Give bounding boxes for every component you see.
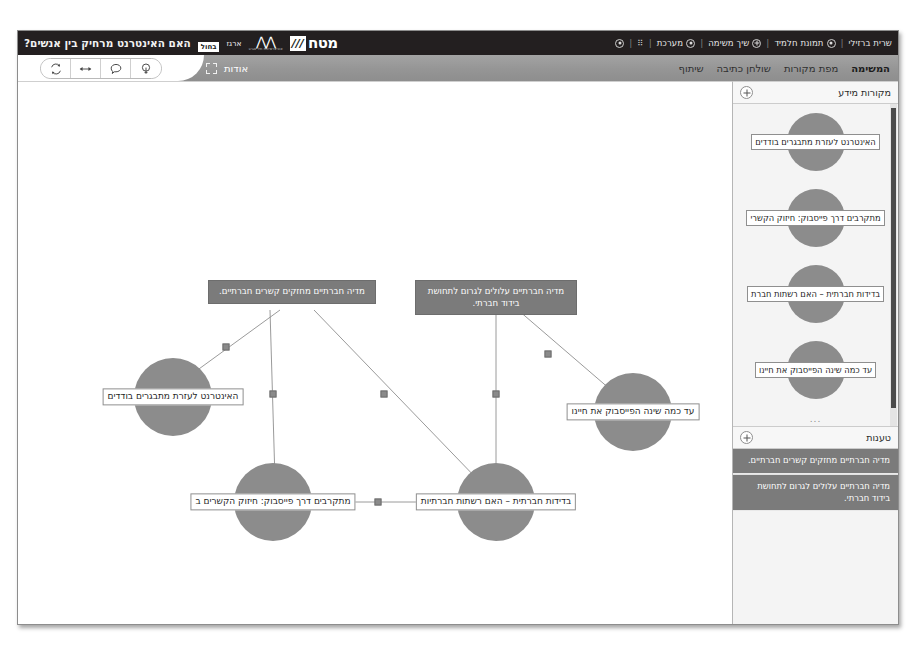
menu-separator: | (840, 38, 845, 48)
menu-item-system-label: מערכת (657, 38, 683, 48)
list-item[interactable]: מדיה חברתיים עלולים לגרום לתחושת בידוד ח… (733, 474, 898, 512)
scrollbar-thumb[interactable] (891, 108, 896, 408)
sidebar-scrollbar[interactable] (890, 104, 897, 427)
user-icon (827, 39, 836, 48)
source-label[interactable]: מתקרבים דרך פייסבוק: חיזוק הקשרי (746, 210, 884, 226)
mountains-icon: ⋀⋀ (256, 35, 275, 48)
lightbulb-icon[interactable] (131, 59, 161, 78)
about-chip[interactable]: אודות (196, 55, 248, 81)
canvas-claim-box[interactable]: מדיה חברתיים עלולים לגרום לתחושת בידוד ח… (415, 280, 577, 315)
top-bar: | ⠿ | מערכת | שיך משימה | תמונת חלמיד | … (18, 31, 898, 55)
canvas-toolbar (40, 58, 162, 79)
expand-brackets-icon (206, 63, 217, 74)
about-label: אודות (224, 63, 248, 74)
claims-list[interactable]: מדיה חברתיים מחזקים קשרים חברתיים. מדיה … (733, 449, 898, 624)
list-item[interactable]: בדידות חברתית – האם רשתות חברת (733, 256, 898, 332)
top-bar-left-menu: | ⠿ | מערכת | שיך משימה | תמונת חלמיד | … (615, 38, 892, 48)
badge-white-text: בחול (198, 42, 220, 52)
menu-item-student-picture[interactable]: תמונת חלמיד (774, 38, 835, 48)
edge-marker[interactable] (493, 391, 500, 398)
source-label[interactable]: האינטרנט לעזרת מתבגרים בודדים (751, 134, 880, 150)
list-item[interactable]: מתקרבים דרך פייסבוק: חיזוק הקשרי (733, 180, 898, 256)
page-title: האם האינטרנט מרחיק בין אנשים? (24, 37, 191, 49)
gear-icon (686, 39, 695, 48)
sources-more-ellipsis[interactable]: ... (810, 414, 822, 424)
menu-item-assign-task[interactable]: שיך משימה (708, 38, 761, 48)
dots-icon: ⠿ (637, 39, 643, 48)
list-item[interactable]: מדיה חברתיים מחזקים קשרים חברתיים. (733, 449, 898, 474)
menu-separator: | (765, 38, 770, 48)
node-label[interactable]: בדידות חברתית – האם רשתות חברתיות (416, 493, 576, 510)
canvas-claim-box[interactable]: מדיה חברתיים מחזקים קשרים חברתיים. (208, 280, 376, 304)
menu-item-dots[interactable]: ⠿ (637, 39, 643, 48)
canvas-node[interactable]: מתקרבים דרך פייסבוק: חיזוק הקשרים ב (234, 463, 312, 541)
nav-strip: אודות המשימה מפת מקורות שולחן כתיבה שיתו… (18, 55, 898, 81)
brand-area: מטח /// ⋀⋀ אוניברסיטת תל אביב ארגז בחול … (24, 34, 338, 53)
edge-marker[interactable] (270, 391, 277, 398)
node-label[interactable]: עד כמה שינה הפייסבוק את חיינו (567, 403, 700, 420)
canvas-node[interactable]: בדידות חברתית – האם רשתות חברתיות (457, 463, 535, 541)
list-item[interactable]: עד כמה שינה הפייסבוק את חיינו (733, 332, 898, 408)
matach-logo-mark: /// (290, 36, 306, 51)
comment-icon[interactable] (101, 59, 131, 78)
menu-item-username[interactable]: שרית ברזילי (849, 38, 892, 48)
add-source-button[interactable] (740, 86, 753, 99)
partner-logo: ⋀⋀ אוניברסיטת תל אביב (248, 35, 282, 52)
nav-tabs: המשימה מפת מקורות שולחן כתיבה שיתוף (679, 55, 890, 81)
edge-claim1-node3 (314, 310, 480, 482)
add-claim-button[interactable] (740, 431, 753, 444)
resize-arrows-icon[interactable] (71, 59, 101, 78)
menu-separator: | (699, 38, 704, 48)
matach-logo: מטח /// (290, 34, 338, 52)
plus-circle-icon (752, 39, 761, 48)
canvas-node[interactable]: האינטרנט לעזרת מתבגרים בודדים (134, 358, 212, 436)
menu-item-power[interactable] (615, 39, 624, 48)
node-label[interactable]: מתקרבים דרך פייסבוק: חיזוק הקשרים ב (190, 493, 355, 510)
source-label[interactable]: עד כמה שינה הפייסבוק את חיינו (755, 362, 876, 378)
badge-white: בחול (198, 34, 220, 53)
canvas-edges (18, 82, 732, 624)
application-window: | ⠿ | מערכת | שיך משימה | תמונת חלמיד | … (17, 30, 899, 625)
work-area: מדיה חברתיים מחזקים קשרים חברתיים. מדיה … (18, 81, 898, 624)
edge-marker[interactable] (545, 351, 552, 358)
tab-writing-desk[interactable]: שולחן כתיבה (717, 63, 771, 74)
menu-item-assign-task-label: שיך משימה (708, 38, 749, 48)
power-icon (615, 39, 624, 48)
canvas-node[interactable]: עד כמה שינה הפייסבוק את חיינו (594, 373, 672, 451)
tab-mission[interactable]: המשימה (851, 63, 890, 74)
menu-item-system[interactable]: מערכת (657, 38, 695, 48)
claims-panel-title: טענות (866, 432, 891, 443)
sources-panel-title: מקורות מידע (838, 87, 891, 98)
partner-logo-sub: אוניברסיטת תל אביב (248, 48, 282, 52)
menu-separator: | (628, 38, 633, 48)
node-label[interactable]: האינטרנט לעזרת מתבגרים בודדים (103, 388, 244, 405)
matach-logo-word: מטח (308, 34, 338, 52)
menu-item-username-label: שרית ברזילי (849, 38, 892, 48)
menu-separator: | (648, 38, 653, 48)
edge-marker[interactable] (381, 391, 388, 398)
sources-list[interactable]: האינטרנט לעזרת מתבגרים בודדים מתקרבים דר… (733, 104, 898, 427)
edge-marker[interactable] (375, 499, 382, 506)
claims-panel-header: טענות (733, 427, 898, 449)
tab-sharing[interactable]: שיתוף (679, 63, 704, 74)
argaz-label: ארגז (226, 39, 241, 48)
sources-panel-header: מקורות מידע (733, 82, 898, 104)
list-item[interactable]: האינטרנט לעזרת מתבגרים בודדים (733, 104, 898, 180)
menu-item-student-picture-label: תמונת חלמיד (774, 38, 823, 48)
edge-marker[interactable] (223, 344, 230, 351)
refresh-icon[interactable] (41, 59, 71, 78)
source-label[interactable]: בדידות חברתית – האם רשתות חברת (747, 286, 884, 302)
tab-sources-map[interactable]: מפת מקורות (784, 63, 838, 74)
sources-map-canvas[interactable]: מדיה חברתיים מחזקים קשרים חברתיים. מדיה … (18, 81, 732, 624)
right-sidebar: מקורות מידע האינטרנט לעזרת מתבגרים בודדי… (732, 81, 898, 624)
